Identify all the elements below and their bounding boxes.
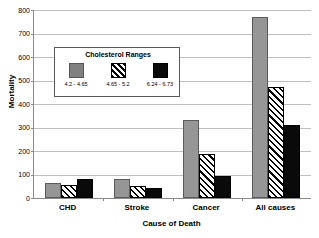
y-axis-tick-labels: 0100200300400500600700800 (6, 0, 30, 238)
bar-group (252, 10, 300, 198)
y-tick-label: 800 (8, 7, 30, 14)
x-category-label: Cancer (172, 203, 241, 212)
y-tick-label: 100 (8, 171, 30, 178)
legend-swatch (111, 63, 126, 78)
y-tick-label: 0 (8, 195, 30, 202)
x-tick-mark (103, 198, 104, 201)
y-tick-mark (31, 10, 34, 11)
y-tick-mark (31, 198, 34, 199)
legend-entry: 4.2 - 4.65 (55, 63, 97, 87)
legend-label: 4.2 - 4.65 (55, 81, 97, 87)
mortality-bar-chart: Mortality 0100200300400500600700800 CHDS… (0, 0, 319, 238)
x-axis-title: Cause of Death (33, 219, 310, 228)
y-tick-label: 400 (8, 101, 30, 108)
x-category-label: All causes (241, 203, 310, 212)
bar (114, 179, 130, 198)
y-tick-label: 700 (8, 30, 30, 37)
bar (199, 154, 215, 198)
x-category-label: CHD (33, 203, 102, 212)
bar (146, 188, 162, 198)
bar (284, 125, 300, 198)
legend-entry: 4.65 - 5.2 (97, 63, 139, 87)
legend-entry: 6.24 - 6.73 (139, 63, 181, 87)
x-tick-mark (173, 198, 174, 201)
x-category-label: Stroke (102, 203, 171, 212)
y-tick-mark (31, 57, 34, 58)
y-tick-mark (31, 34, 34, 35)
bar (252, 17, 268, 198)
y-tick-mark (31, 81, 34, 82)
y-tick-label: 300 (8, 124, 30, 131)
y-tick-mark (31, 104, 34, 105)
bar-group (114, 10, 162, 198)
y-tick-mark (31, 175, 34, 176)
bar-group (183, 10, 231, 198)
y-tick-label: 200 (8, 148, 30, 155)
legend-label: 4.65 - 5.2 (97, 81, 139, 87)
y-tick-label: 500 (8, 77, 30, 84)
y-tick-mark (31, 151, 34, 152)
bar (183, 120, 199, 198)
bar (215, 176, 231, 198)
y-tick-label: 600 (8, 54, 30, 61)
legend-title: Cholesterol Ranges (55, 51, 181, 58)
bar (61, 185, 77, 198)
bar (268, 87, 284, 198)
legend: Cholesterol Ranges 4.2 - 4.654.65 - 5.26… (54, 47, 180, 97)
legend-label: 6.24 - 6.73 (139, 81, 181, 87)
x-tick-mark (242, 198, 243, 201)
y-tick-mark (31, 128, 34, 129)
bar (77, 179, 93, 198)
legend-swatch (153, 63, 168, 78)
plot-area (33, 10, 311, 199)
bar-group (45, 10, 93, 198)
bar (45, 183, 61, 198)
bar (130, 186, 146, 198)
legend-swatch (69, 63, 84, 78)
